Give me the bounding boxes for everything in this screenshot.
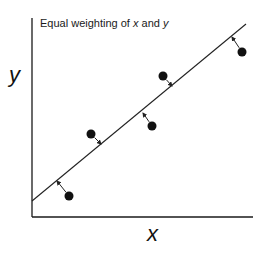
title-text-mid: and bbox=[138, 17, 162, 29]
y-axis-label: y bbox=[9, 62, 20, 88]
x-axis-label: x bbox=[147, 221, 158, 247]
data-point bbox=[87, 130, 96, 139]
data-point bbox=[65, 192, 74, 201]
regression-diagram bbox=[0, 0, 265, 254]
residual-arrow bbox=[232, 37, 239, 48]
title-text: Equal weighting of bbox=[40, 17, 133, 29]
data-point bbox=[148, 122, 157, 131]
residual-arrow bbox=[95, 138, 101, 144]
residual-arrow bbox=[57, 181, 66, 192]
data-points bbox=[57, 37, 247, 201]
title-var-y: y bbox=[163, 17, 169, 29]
fit-line bbox=[32, 24, 246, 201]
diagram-title: Equal weighting of x and y bbox=[40, 17, 168, 29]
data-point bbox=[159, 72, 168, 81]
residual-arrow bbox=[143, 113, 149, 122]
residual-arrow bbox=[166, 80, 172, 86]
data-point bbox=[238, 48, 247, 57]
